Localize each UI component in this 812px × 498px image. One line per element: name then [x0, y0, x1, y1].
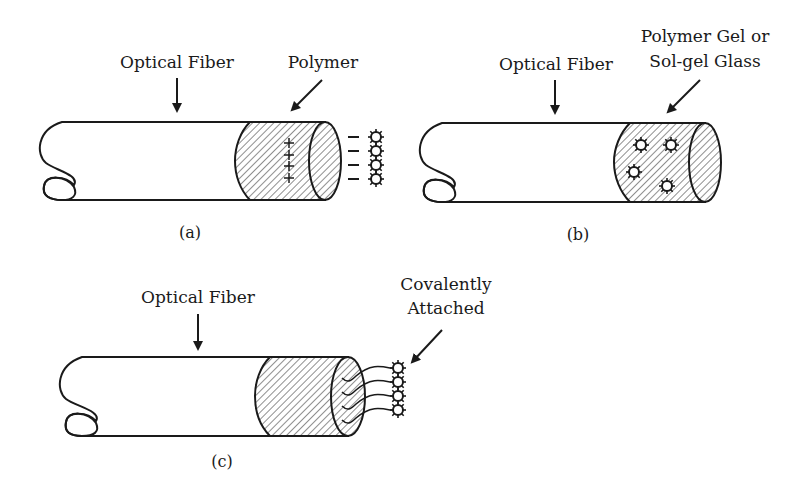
arrow-diagonal-icon [294, 80, 322, 108]
negative-charges [348, 137, 359, 179]
arrow-diagonal-icon [670, 80, 700, 110]
fiber-tip-face [309, 122, 341, 200]
gel-label-line1: Polymer Gel or [641, 26, 770, 46]
gel-label-line2: Sol-gel Glass [649, 51, 760, 71]
immobilization-diagram: Optical Fiber Polymer (a) Optical Fiber … [0, 0, 812, 498]
fiber-label: Optical Fiber [141, 287, 256, 307]
caption-b: (b) [567, 225, 590, 244]
panel-c: Optical Fiber Covalently Attached (c) [60, 274, 492, 471]
fiber-label: Optical Fiber [120, 52, 235, 72]
polymer-label: Polymer [288, 52, 359, 72]
covalent-label-line1: Covalently [400, 274, 492, 294]
fiber-tip-face [331, 357, 365, 436]
panel-a: Optical Fiber Polymer (a) [40, 52, 384, 242]
arrow-diagonal-icon [414, 330, 442, 360]
fiber-label: Optical Fiber [499, 54, 614, 74]
attached-molecule-icons [390, 360, 406, 418]
caption-c: (c) [211, 452, 232, 471]
molecule-icons [368, 129, 384, 187]
fiber-tip-face [689, 123, 721, 202]
panel-b: Optical Fiber Polymer Gel or Sol-gel Gla… [420, 26, 770, 244]
caption-a: (a) [179, 223, 201, 242]
covalent-label-line2: Attached [406, 298, 484, 318]
